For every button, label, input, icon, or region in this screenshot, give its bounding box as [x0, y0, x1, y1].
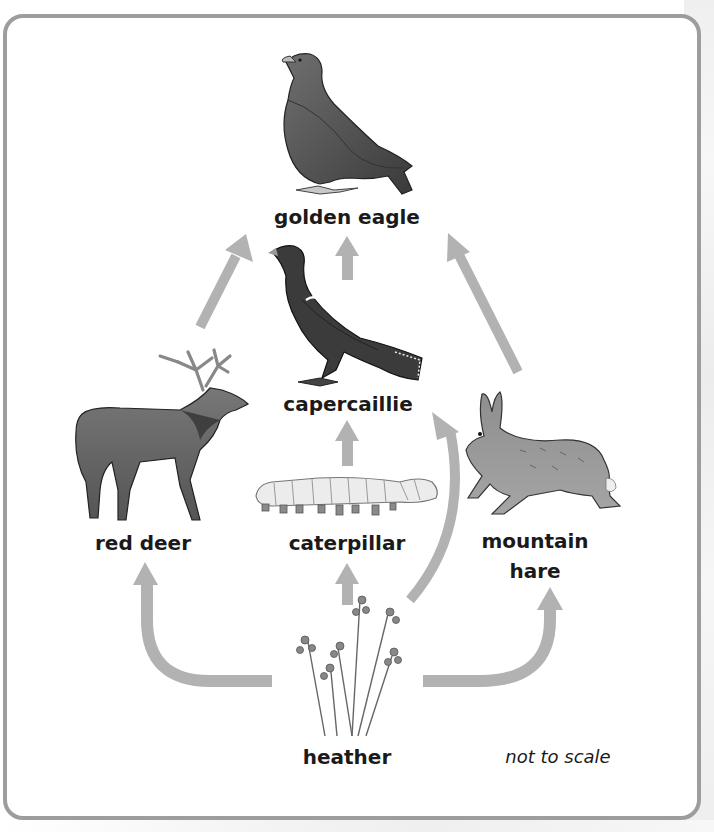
red-deer-icon	[76, 350, 248, 520]
scale-note: not to scale	[505, 745, 610, 769]
label-red-deer: red deer	[95, 529, 191, 557]
arrow-caterpillar-to-capercaillie	[335, 420, 359, 466]
golden-eagle-icon	[282, 54, 412, 194]
mountain-hare-icon	[466, 392, 620, 514]
arrow-mountain-hare-to-golden-eagle	[447, 233, 518, 372]
arrow-heather-to-mountain-hare	[423, 587, 563, 681]
arrow-heather-to-red-deer	[133, 562, 272, 681]
arrow-heather-to-caterpillar	[335, 563, 359, 605]
arrow-capercaillie-to-golden-eagle	[335, 236, 359, 280]
heather-icon	[297, 596, 402, 736]
label-caterpillar: caterpillar	[289, 529, 406, 557]
arrow-red-deer-to-golden-eagle	[200, 234, 253, 327]
label-mountain-hare-line1: mountain	[481, 527, 588, 555]
label-mountain-hare-line2: hare	[509, 557, 560, 585]
label-capercaillie: capercaillie	[283, 390, 412, 418]
arrow-heather-to-capercaillie	[410, 412, 459, 600]
caterpillar-icon	[256, 478, 437, 516]
label-golden-eagle: golden eagle	[274, 203, 420, 231]
label-heather: heather	[303, 743, 392, 771]
